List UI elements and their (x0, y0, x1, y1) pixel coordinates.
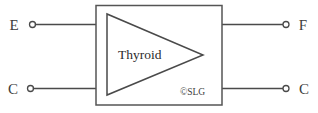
port-left-bottom[interactable]: C (8, 81, 96, 97)
port-right-bottom[interactable]: C (222, 81, 309, 97)
credit-text: ©SLG (180, 87, 205, 97)
terminal-circle-left-bottom[interactable] (28, 86, 34, 92)
block-diagram: E C F C Thyroid ©SLG (0, 0, 318, 113)
port-left-top[interactable]: E (9, 17, 96, 33)
port-label-e: E (9, 17, 18, 33)
terminal-circle-right-bottom[interactable] (283, 86, 289, 92)
block-label-thyroid: Thyroid (118, 47, 162, 62)
diagram-canvas: E C F C Thyroid ©SLG (0, 0, 318, 113)
port-right-top[interactable]: F (222, 17, 307, 33)
terminal-circle-right-top[interactable] (283, 22, 289, 28)
port-label-c-left: C (8, 81, 18, 97)
port-label-f: F (299, 17, 307, 33)
terminal-circle-left-top[interactable] (30, 22, 36, 28)
port-label-c-right: C (299, 81, 309, 97)
